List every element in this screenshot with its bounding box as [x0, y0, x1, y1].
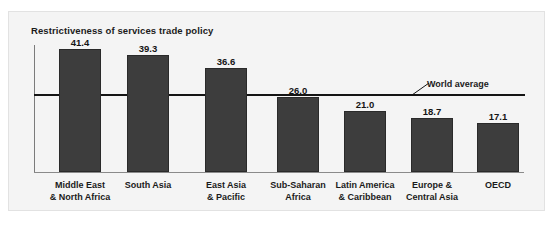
y-axis-line: [34, 45, 35, 173]
y-axis-title: Restrictiveness of services trade policy: [31, 25, 213, 36]
category-label-line1: South Asia: [125, 180, 172, 190]
x-axis-baseline: [34, 172, 524, 173]
figure-container: Restrictiveness of services trade policy…: [0, 0, 555, 227]
category-label-line1: OECD: [485, 180, 511, 190]
bar-sub-saharan-africa[interactable]: [277, 97, 319, 172]
bar-value-latin-america-caribbean: 21.0: [344, 99, 386, 110]
bar-europe-central-asia[interactable]: [411, 118, 453, 172]
category-label-oecd: OECD: [441, 180, 555, 192]
world-average-label: World average: [427, 79, 489, 89]
bar-south-asia[interactable]: [127, 55, 169, 172]
bar-value-oecd: 17.1: [477, 111, 519, 122]
bar-value-middle-east-north-africa: 41.4: [59, 37, 101, 48]
bar-middle-east-north-africa[interactable]: [59, 49, 101, 172]
bar-east-asia-pacific[interactable]: [205, 68, 247, 172]
bar-latin-america-caribbean[interactable]: [344, 111, 386, 172]
category-label-line2: Central Asia: [375, 192, 489, 204]
bar-value-europe-central-asia: 18.7: [411, 106, 453, 117]
bar-value-sub-saharan-africa: 26.0: [277, 85, 319, 96]
bar-oecd[interactable]: [477, 123, 519, 172]
bar-value-south-asia: 39.3: [127, 43, 169, 54]
bar-value-east-asia-pacific: 36.6: [205, 56, 247, 67]
chart-plot-area: Restrictiveness of services trade policy…: [0, 0, 555, 227]
category-label-line2: & North Africa: [23, 192, 137, 204]
